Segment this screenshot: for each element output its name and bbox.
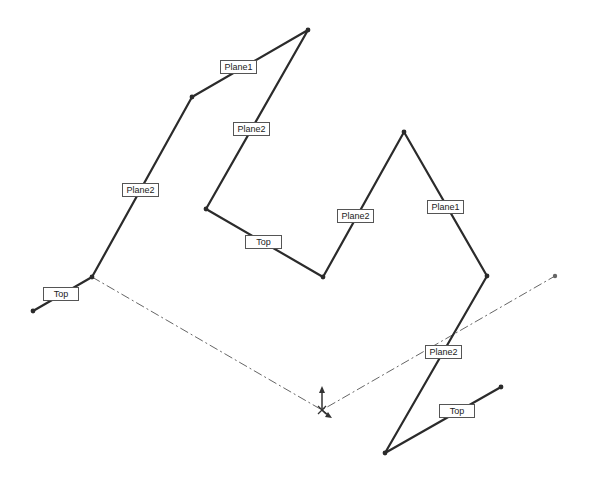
relation-label-plane1[interactable]: Plane1	[220, 60, 257, 74]
sketch-vertex[interactable]	[31, 309, 36, 314]
relation-label-top[interactable]: Top	[245, 235, 282, 249]
sketch-vertex[interactable]	[306, 28, 311, 33]
relation-label-plane2[interactable]: Plane2	[337, 209, 374, 223]
relation-label-plane1[interactable]: Plane1	[427, 200, 464, 214]
sketch-vertex[interactable]	[321, 275, 326, 280]
sketch-vertex[interactable]	[485, 274, 490, 279]
sketch-canvas[interactable]	[0, 0, 591, 482]
sketch-vertex[interactable]	[383, 451, 388, 456]
sketch-vertex[interactable]	[90, 275, 95, 280]
relation-label-plane2[interactable]: Plane2	[425, 345, 462, 359]
relation-label-top[interactable]: Top	[439, 404, 475, 418]
origin-triad-icon	[318, 386, 332, 418]
centerline-endpoint[interactable]	[553, 274, 557, 278]
relation-label-plane2[interactable]: Plane2	[233, 122, 270, 136]
sketch-vertex[interactable]	[499, 385, 504, 390]
construction-centerline[interactable]	[92, 274, 557, 410]
relation-label-plane2[interactable]: Plane2	[122, 183, 159, 197]
sketch-vertex[interactable]	[402, 130, 407, 135]
relation-label-top[interactable]: Top	[43, 287, 79, 301]
sketch-vertex[interactable]	[204, 207, 209, 212]
sketch-vertex[interactable]	[190, 95, 195, 100]
